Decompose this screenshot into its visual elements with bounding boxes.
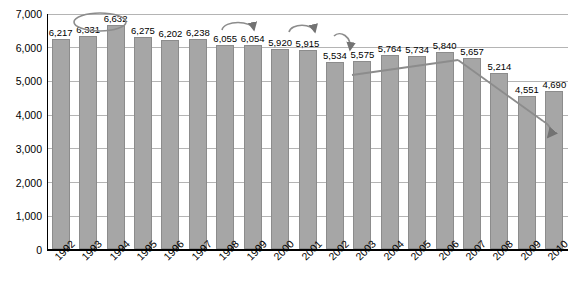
- y-axis-tick-label: 5,000: [16, 75, 42, 87]
- bar-value-label: 5,734: [405, 44, 429, 55]
- bar: [107, 25, 125, 249]
- bar: [189, 39, 207, 249]
- bar: [134, 37, 152, 249]
- bar: [216, 45, 234, 249]
- bar: [353, 61, 371, 249]
- bar-value-label: 5,915: [296, 38, 320, 49]
- y-axis-tick-label: 7,000: [16, 8, 42, 20]
- y-axis-tick-label: 6,000: [16, 42, 42, 54]
- bar-value-label: 6,632: [104, 13, 128, 24]
- bar: [545, 91, 563, 249]
- bar-value-label: 5,840: [433, 40, 457, 51]
- bar-value-label: 6,055: [213, 33, 237, 44]
- bar: [299, 50, 317, 249]
- bar: [326, 62, 344, 249]
- y-axis-tick-label: 2,000: [16, 177, 42, 189]
- bar: [244, 45, 262, 249]
- bar-value-label: 4,551: [515, 84, 539, 95]
- bar: [463, 58, 481, 249]
- bar: [408, 56, 426, 249]
- bar-chart: 01,0002,0003,0004,0005,0006,0007,000 6,2…: [0, 0, 577, 307]
- bar: [52, 39, 70, 249]
- y-axis-tick-label: 1,000: [16, 210, 42, 222]
- bar-value-label: 5,920: [268, 37, 292, 48]
- bar: [161, 40, 179, 249]
- bar-value-label: 6,238: [186, 27, 210, 38]
- y-axis-tick-label: 4,000: [16, 109, 42, 121]
- y-axis-line: [47, 14, 48, 250]
- bar-value-label: 6,054: [241, 33, 265, 44]
- bar-value-label: 5,575: [350, 49, 374, 60]
- bar-value-label: 4,690: [542, 79, 566, 90]
- bar-value-label: 5,764: [378, 43, 402, 54]
- y-axis-tick-label: 3,000: [16, 143, 42, 155]
- bar: [381, 55, 399, 249]
- bar-value-label: 5,214: [488, 61, 512, 72]
- y-axis-tick-label: 0: [36, 244, 42, 256]
- bar-value-label: 6,217: [49, 27, 73, 38]
- bar-value-label: 6,331: [76, 24, 100, 35]
- bar: [436, 52, 454, 249]
- bar-value-label: 5,534: [323, 50, 347, 61]
- bar: [518, 96, 536, 249]
- bar: [271, 49, 289, 249]
- plot-area: 01,0002,0003,0004,0005,0006,0007,000 6,2…: [47, 14, 568, 250]
- bar-value-label: 5,657: [460, 46, 484, 57]
- bar-value-label: 6,275: [131, 25, 155, 36]
- bar: [79, 36, 97, 249]
- bar: [490, 73, 508, 249]
- bar-value-label: 6,202: [159, 28, 183, 39]
